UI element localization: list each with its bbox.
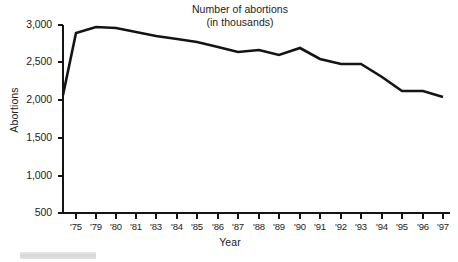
x-axis-title: Year (180, 236, 280, 248)
y-tick-label-500: 3,000 (12, 18, 52, 30)
y-tick-label-1000: 2,500 (12, 55, 52, 67)
chart-figure: Number of abortions (in thousands) 3,000… (0, 0, 458, 262)
x-tick-label-97: '97 (430, 221, 456, 232)
axis-lines (63, 25, 450, 213)
y-tick-label-3000: 500 (12, 206, 52, 218)
scan-smudge-artifact (20, 252, 96, 259)
data-series-line (63, 27, 443, 97)
x-axis-tick-marks (76, 213, 443, 219)
y-axis-tick-marks (58, 25, 63, 213)
y-tick-label-2500: 1,000 (12, 169, 52, 181)
y-axis-title: Abortions (8, 75, 20, 145)
